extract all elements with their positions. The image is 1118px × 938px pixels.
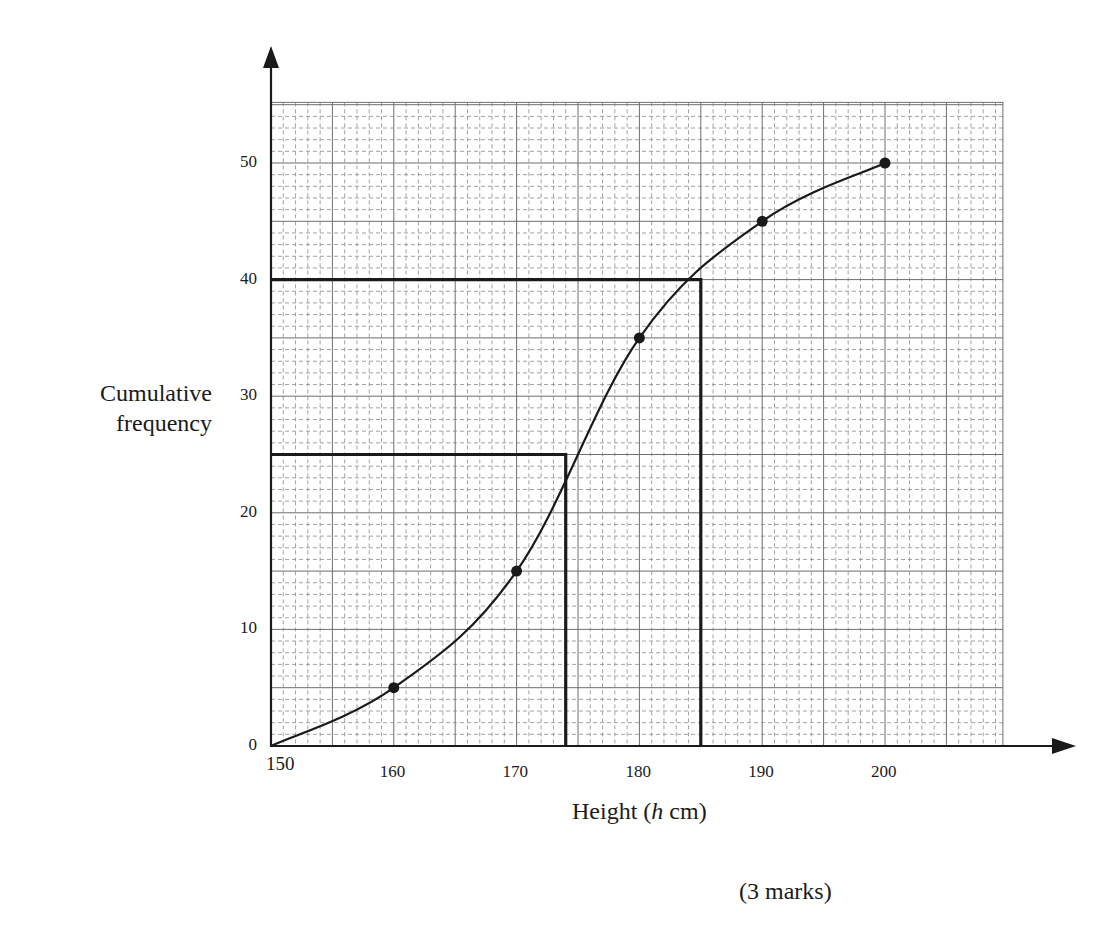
- x-tick-label: 160: [380, 762, 406, 782]
- x-tick-label: 170: [503, 762, 529, 782]
- x-axis-label-pre: Height (: [572, 798, 651, 824]
- x-tick-label: 150: [266, 753, 295, 775]
- y-axis-label: Cumulative frequency: [40, 378, 212, 438]
- y-tick-label: 0: [217, 735, 257, 755]
- y-tick-label: 30: [217, 385, 257, 405]
- marks-label: (3 marks): [739, 878, 832, 905]
- axes: [263, 46, 1076, 754]
- grid-border: [271, 102, 1003, 746]
- data-point: [634, 332, 645, 343]
- x-tick-label: 190: [748, 762, 774, 782]
- minor-grid: [271, 102, 1003, 746]
- y-tick-label: 40: [217, 269, 257, 289]
- major-grid: [271, 102, 1003, 746]
- y-axis-arrow-icon: [263, 46, 279, 68]
- data-point: [388, 682, 399, 693]
- data-point: [511, 566, 522, 577]
- x-tick-label: 180: [625, 762, 651, 782]
- data-point: [757, 216, 768, 227]
- x-axis-label: Height (h cm): [572, 798, 707, 825]
- y-tick-label: 10: [217, 618, 257, 638]
- x-tick-label: 200: [871, 762, 897, 782]
- y-tick-label: 50: [217, 152, 257, 172]
- x-axis-label-variable: h: [651, 798, 663, 824]
- y-axis-label-line-2: frequency: [40, 408, 212, 438]
- cumulative-frequency-chart: [0, 0, 1118, 938]
- x-axis-arrow-icon: [1052, 738, 1076, 754]
- data-point: [880, 158, 891, 169]
- x-axis-label-post: cm): [663, 798, 706, 824]
- y-tick-label: 20: [217, 502, 257, 522]
- y-axis-label-line-1: Cumulative: [40, 378, 212, 408]
